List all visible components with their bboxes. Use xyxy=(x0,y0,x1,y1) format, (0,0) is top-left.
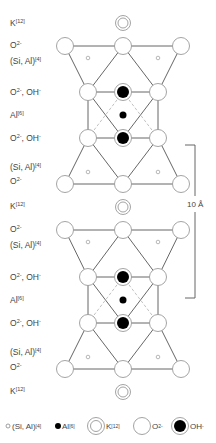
scale-bar-label: 10 Å xyxy=(187,200,203,209)
legend-item-o: O2- xyxy=(132,414,163,438)
k-atom-mid xyxy=(116,200,131,215)
large-open-circle-icon xyxy=(132,416,152,436)
legend-item-oh: OH- xyxy=(170,414,204,438)
k-atom-bottom xyxy=(116,385,131,400)
legend-item-si-al: (Si, Al)[4] xyxy=(4,414,41,438)
small-filled-circle-icon xyxy=(54,422,62,430)
legend-item-k: K[12] xyxy=(86,414,120,438)
legend-item-al: Al[6] xyxy=(54,414,75,438)
legend: (Si, Al)[4] Al[6] K[12] O2- OH- xyxy=(4,414,216,438)
atoms-block-1 xyxy=(57,16,190,193)
mica-structure-diagram xyxy=(0,0,216,443)
al-atom-1 xyxy=(120,112,127,119)
double-ring-icon xyxy=(86,416,106,436)
small-open-circle-icon xyxy=(4,422,12,430)
atoms-block-2 xyxy=(57,222,190,378)
scale-bar xyxy=(185,145,195,298)
al-atom-2 xyxy=(120,297,127,304)
k-atom-top xyxy=(116,16,131,31)
large-filled-circle-icon xyxy=(170,416,190,436)
